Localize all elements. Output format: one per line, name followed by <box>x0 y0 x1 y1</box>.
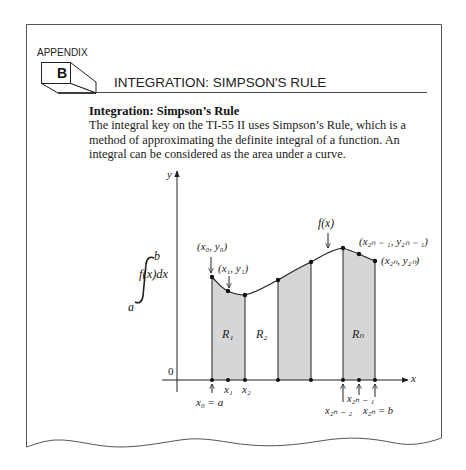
tick-label-x2: x₂ <box>242 383 251 395</box>
tick-label-x2n-minus-2: x₂ₙ ₋ ₂ <box>325 404 352 416</box>
region-label-rn: Rₙ <box>352 327 364 342</box>
origin-label: 0 <box>168 365 174 377</box>
shaded-region-rn <box>343 248 375 380</box>
curve-label: f(x) <box>318 217 334 229</box>
point-label-p1: (x₁, y₁) <box>218 262 248 274</box>
integral-lower-limit: a <box>128 300 134 315</box>
tick-label-x2n-minus-1: x₂ₙ ₋ ₁ <box>347 392 374 404</box>
integral-expression: f(x)dx <box>139 267 168 282</box>
x-axis-label: x <box>411 372 416 384</box>
tick-label-x1: x₁ <box>224 383 233 395</box>
shaded-region-r2-right <box>278 262 311 380</box>
point-label-p0: (x₀, y₀) <box>197 240 227 252</box>
tick-label-x0: x₀ = a <box>196 396 223 408</box>
integral-upper-limit: b <box>154 249 160 264</box>
y-axis-label: y <box>167 168 172 180</box>
point-label-p2n: (x₂ₙ, y₂ₙ) <box>381 254 419 267</box>
point-label-p2n-minus-1: (x₂ₙ ₋ ₁, y₂ₙ ₋ ₁) <box>359 235 428 248</box>
region-label-r1: R₁ <box>222 327 234 342</box>
tick-label-x2n: x₂ₙ = b <box>363 404 393 416</box>
region-label-r2: R₂ <box>256 327 268 342</box>
